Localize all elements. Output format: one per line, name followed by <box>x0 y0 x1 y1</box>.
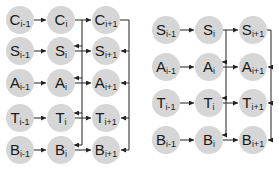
node-S-i: Si <box>195 16 223 44</box>
node-B-i-1: Bi-1 <box>6 136 34 164</box>
node-S-i+1: Si+1 <box>239 16 267 44</box>
node-B-i+1: Bi+1 <box>239 126 267 154</box>
node-A-i-1: Ai-1 <box>6 69 34 97</box>
node-A-i+1: Ai+1 <box>239 53 267 81</box>
node-B-i-1: Bi-1 <box>152 126 180 154</box>
node-T-i-1: Ti-1 <box>6 104 34 132</box>
node-T-i-1: Ti-1 <box>152 89 180 117</box>
node-A-i-1: Ai-1 <box>152 53 180 81</box>
node-S-i: Si <box>47 37 75 65</box>
diagram-canvas: Ci-1CiCi+1Si-1SiSi+1Ai-1AiAi+1Ti-1TiTi+1… <box>0 0 279 173</box>
node-A-i: Ai <box>47 69 75 97</box>
node-B-i: Bi <box>195 126 223 154</box>
node-S-i-1: Si-1 <box>6 37 34 65</box>
node-C-i-1: Ci-1 <box>6 6 34 34</box>
node-A-i: Ai <box>195 53 223 81</box>
node-C-i+1: Ci+1 <box>92 6 120 34</box>
node-A-i+1: Ai+1 <box>92 69 120 97</box>
node-T-i: Ti <box>47 104 75 132</box>
node-C-i: Ci <box>47 6 75 34</box>
node-B-i+1: Bi+1 <box>92 136 120 164</box>
node-T-i: Ti <box>195 89 223 117</box>
node-T-i+1: Ti+1 <box>239 89 267 117</box>
node-S-i+1: Si+1 <box>92 37 120 65</box>
node-S-i-1: Si-1 <box>152 16 180 44</box>
node-B-i: Bi <box>47 136 75 164</box>
node-T-i+1: Ti+1 <box>92 104 120 132</box>
